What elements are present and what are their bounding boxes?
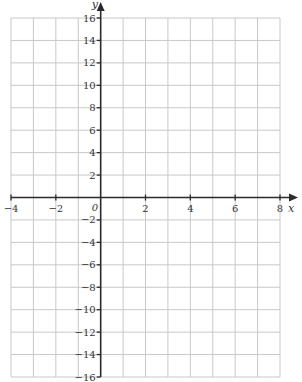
y-tick-label: 8 [89, 102, 95, 113]
x-tick-label: −4 [4, 203, 19, 214]
y-tick-label: 4 [89, 147, 95, 158]
x-axis-arrow-icon [289, 194, 298, 202]
origin-label: 0 [92, 202, 99, 213]
y-tick-label: −14 [75, 349, 96, 360]
y-axis-label: y [91, 0, 99, 11]
y-tick-label: −2 [81, 214, 96, 225]
y-tick-label: −12 [75, 327, 96, 338]
y-tick-label: −10 [75, 304, 96, 315]
y-tick-label: −16 [75, 372, 96, 382]
coordinate-grid-chart: −4−22468161412108642−2−4−6−8−10−12−14−16… [0, 0, 302, 382]
x-tick-label: 4 [187, 203, 193, 214]
y-tick-label: −4 [81, 237, 96, 248]
x-tick-label: 8 [277, 203, 283, 214]
axes [11, 2, 298, 377]
y-tick-label: 12 [83, 57, 96, 68]
y-tick-label: 6 [89, 125, 95, 136]
y-tick-label: 10 [83, 80, 96, 91]
y-tick-label: 14 [83, 35, 96, 46]
x-tick-label: 6 [232, 203, 238, 214]
x-axis-label: x [288, 202, 295, 215]
y-tick-label: 16 [83, 13, 96, 24]
y-tick-label: 2 [89, 170, 95, 181]
x-tick-label: 2 [142, 203, 148, 214]
y-tick-label: −6 [81, 259, 96, 270]
x-tick-label: −2 [48, 203, 63, 214]
y-tick-label: −8 [81, 282, 96, 293]
